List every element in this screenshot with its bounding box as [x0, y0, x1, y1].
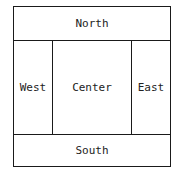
- south-region: South: [14, 134, 170, 166]
- border-layout-frame: North West Center East South: [13, 6, 171, 167]
- east-region: East: [132, 41, 170, 134]
- center-label: Center: [72, 81, 112, 94]
- west-label: West: [20, 81, 47, 94]
- south-label: South: [75, 144, 108, 157]
- north-region: North: [14, 7, 170, 41]
- east-label: East: [138, 81, 165, 94]
- west-region: West: [14, 41, 53, 134]
- north-label: North: [75, 17, 108, 30]
- center-region: Center: [53, 41, 132, 134]
